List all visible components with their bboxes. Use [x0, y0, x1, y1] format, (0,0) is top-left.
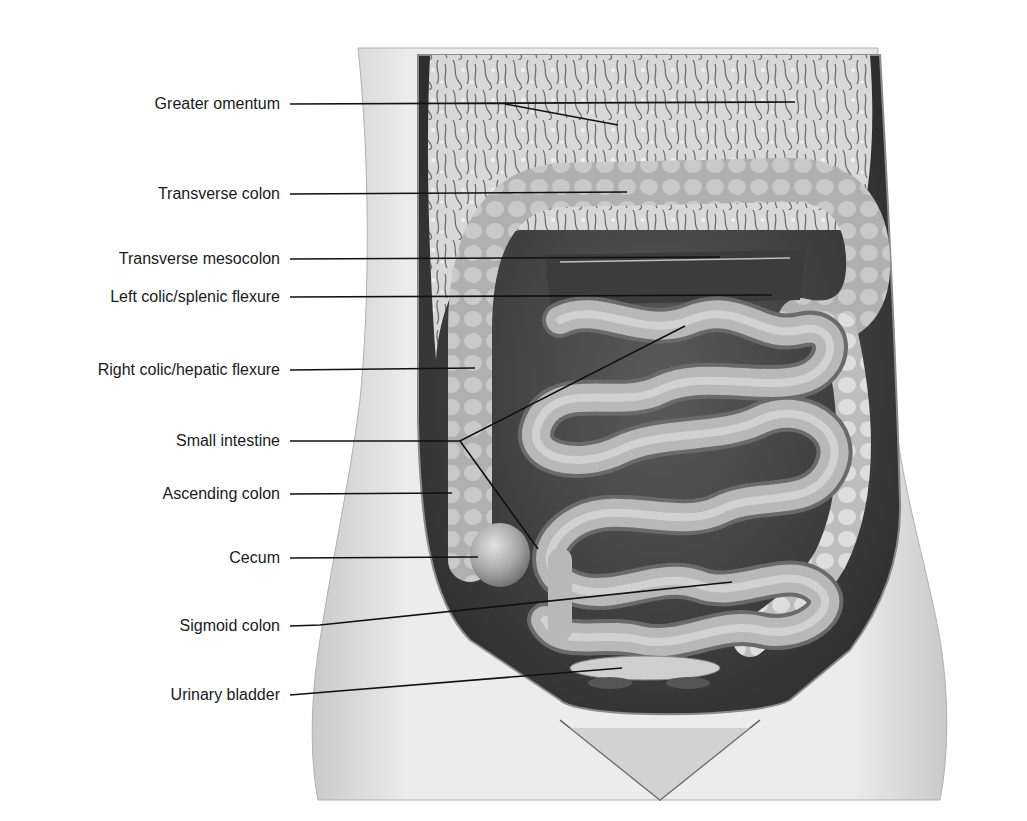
label-ascending-colon: Ascending colon: [163, 485, 280, 503]
leader-cecum: [290, 557, 478, 558]
cecum-shape: [470, 523, 530, 587]
label-right-colic-flexure: Right colic/hepatic flexure: [98, 361, 280, 379]
label-sigmoid-colon: Sigmoid colon: [180, 617, 281, 635]
abdomen-illustration: [0, 0, 1027, 821]
label-transverse-mesocolon: Transverse mesocolon: [119, 250, 280, 268]
label-greater-omentum: Greater omentum: [155, 95, 280, 113]
label-urinary-bladder: Urinary bladder: [171, 686, 280, 704]
leader-ascending-colon: [290, 493, 452, 494]
label-transverse-colon: Transverse colon: [158, 185, 280, 203]
anatomy-diagram: Greater omentum Transverse colon Transve…: [0, 0, 1027, 821]
label-cecum: Cecum: [229, 549, 280, 567]
label-left-colic-flexure: Left colic/splenic flexure: [110, 288, 280, 306]
urinary-bladder-shape: [570, 656, 720, 680]
label-small-intestine: Small intestine: [176, 432, 280, 450]
